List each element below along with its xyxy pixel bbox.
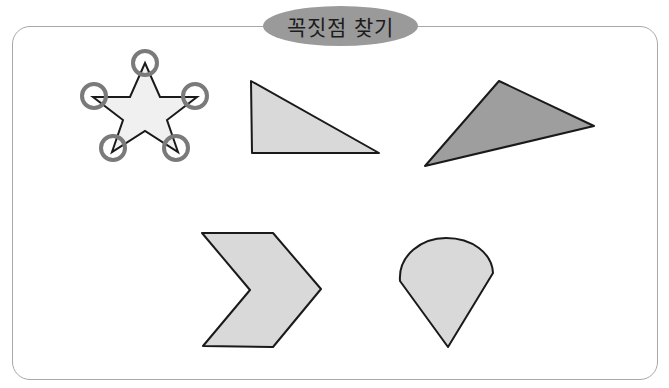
obtuse-triangle-shape [425,81,594,166]
star-shape [82,51,207,160]
teardrop-shape [400,238,493,347]
chevron-shape [202,233,321,347]
shapes-canvas [0,0,669,388]
right-triangle-shape [251,81,379,153]
